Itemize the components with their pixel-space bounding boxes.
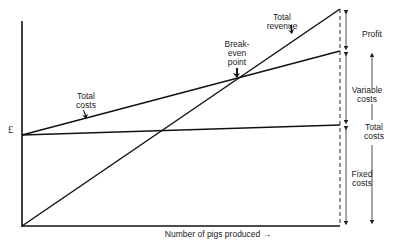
profit-label: Profit [355,30,389,39]
break-even-pointer-icon [233,68,240,78]
label-line: costs [347,95,387,104]
total-costs-bracket-label: Total costs [358,123,390,141]
label-line: costs [349,179,375,188]
break-even-diagram [0,0,399,245]
label-line: revenue [262,22,302,31]
total-revenue-label: Total revenue [262,13,302,31]
x-axis-label: Number of pigs produced → [148,230,288,239]
break-even-label: Break- even point [222,40,252,67]
y-axis-label: £ [8,125,13,134]
label-line: point [222,58,252,67]
total-revenue-line [22,9,340,226]
label-line: costs [358,132,390,141]
variable-costs-label: Variable costs [347,86,387,104]
fixed-costs-label: Fixed costs [349,170,375,188]
fixed-costs-line [22,125,340,135]
total-costs-line-label: Total costs [70,92,102,110]
label-line: costs [70,101,102,110]
